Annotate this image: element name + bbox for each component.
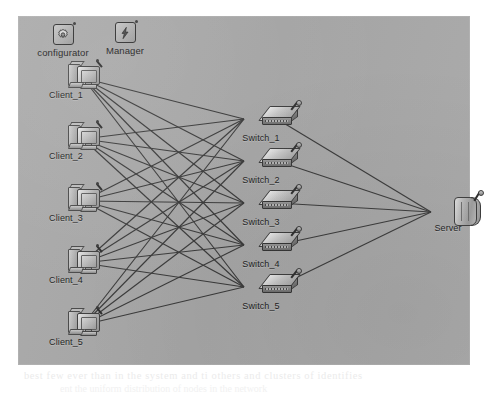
client-node-label: Client_2: [34, 151, 98, 161]
client-node-client-3[interactable]: Client_3: [34, 184, 98, 223]
manager-tile[interactable]: [115, 22, 136, 43]
switch-front-face: [262, 285, 292, 293]
switch-node-switch-1[interactable]: Switch_1: [229, 104, 293, 143]
topology-canvas[interactable]: configurator Manager Client_1Client_2Cli…: [18, 16, 470, 365]
page-bleed-text-line-1: best few ever than in the system and ti …: [24, 370, 464, 381]
link-client_3-switch_3: [83, 201, 244, 203]
keyboard: [68, 82, 84, 88]
link-client_3-switch_5: [83, 201, 244, 287]
client-node-client-1[interactable]: Client_1: [34, 61, 98, 100]
keyboard: [68, 329, 84, 335]
monitor-screen: [81, 193, 97, 206]
switch-front-face: [262, 243, 292, 251]
workstation-icon[interactable]: [34, 308, 98, 338]
link-client_3-switch_4: [83, 201, 244, 245]
server-icon[interactable]: [416, 194, 480, 224]
network-link-icon: [96, 306, 105, 316]
link-client_5-switch_2: [83, 161, 244, 325]
antenna-icon: [291, 184, 302, 195]
link-switch_1-server: [277, 119, 431, 212]
switch-node-label: Switch_2: [229, 175, 293, 185]
switch-ports: [265, 288, 288, 290]
link-client_1-switch_1: [83, 78, 244, 119]
client-node-client-5[interactable]: Client_5: [34, 308, 98, 347]
monitor-screen: [81, 255, 97, 268]
network-switch-icon[interactable]: [229, 188, 293, 218]
switch-front-face: [262, 117, 292, 125]
antenna-icon: [474, 190, 486, 202]
keyboard: [68, 267, 84, 273]
network-link-icon: [96, 59, 105, 69]
antenna-icon: [291, 268, 302, 279]
antenna-icon: [291, 226, 302, 237]
page-bleed-text-line-2: ent the uniform distribution of nodes in…: [60, 383, 440, 394]
network-switch-icon[interactable]: [229, 230, 293, 260]
link-client_1-switch_5: [83, 78, 244, 287]
switch-ports: [265, 120, 288, 122]
network-switch-icon[interactable]: [229, 104, 293, 134]
app-shortcut-manager[interactable]: Manager: [86, 22, 164, 56]
monitor-screen: [81, 317, 97, 330]
server-seam: [461, 202, 462, 221]
monitor-screen: [81, 131, 97, 144]
link-client_3-switch_2: [83, 161, 244, 201]
switch-ports: [265, 246, 288, 248]
monitor-screen: [81, 70, 97, 83]
keyboard: [68, 205, 84, 211]
switch-node-switch-3[interactable]: Switch_3: [229, 188, 293, 227]
workstation-icon[interactable]: [34, 61, 98, 91]
switch-node-label: Switch_3: [229, 217, 293, 227]
antenna-icon: [291, 100, 302, 111]
switch-front-face: [262, 159, 292, 167]
link-client_2-switch_1: [83, 119, 244, 139]
app-shortcut-manager-label: Manager: [86, 45, 164, 56]
link-client_3-switch_1: [83, 119, 244, 201]
link-client_5-switch_4: [83, 245, 244, 325]
switch-node-label: Switch_1: [229, 133, 293, 143]
switch-node-label: Switch_4: [229, 259, 293, 269]
antenna-icon: [291, 142, 302, 153]
client-node-label: Client_3: [34, 213, 98, 223]
client-node-client-4[interactable]: Client_4: [34, 246, 98, 285]
tile-badge-dot: [135, 20, 138, 23]
workstation-icon[interactable]: [34, 122, 98, 152]
link-client_2-switch_4: [83, 139, 244, 245]
client-node-label: Client_1: [34, 90, 98, 100]
server-node-server[interactable]: Server: [416, 194, 480, 233]
network-link-icon: [96, 182, 105, 192]
client-node-client-2[interactable]: Client_2: [34, 122, 98, 161]
workstation-icon[interactable]: [34, 184, 98, 214]
network-switch-icon[interactable]: [229, 146, 293, 176]
server-seam: [468, 202, 469, 221]
switch-node-switch-2[interactable]: Switch_2: [229, 146, 293, 185]
switch-node-switch-5[interactable]: Switch_5: [229, 272, 293, 311]
network-link-icon: [96, 120, 105, 130]
switch-front-face: [262, 201, 292, 209]
link-client_4-switch_5: [83, 263, 244, 287]
tile-badge-dot: [73, 22, 76, 25]
switch-node-switch-4[interactable]: Switch_4: [229, 230, 293, 269]
lightning-bolt-icon: [119, 25, 132, 40]
network-switch-icon[interactable]: [229, 272, 293, 302]
client-node-label: Client_5: [34, 337, 98, 347]
keyboard: [68, 143, 84, 149]
client-node-label: Client_4: [34, 275, 98, 285]
switch-node-label: Switch_5: [229, 301, 293, 311]
network-link-icon: [96, 244, 105, 254]
gear-icon: [56, 28, 70, 42]
configurator-tile[interactable]: [53, 24, 74, 45]
switch-ports: [265, 162, 288, 164]
workstation-icon[interactable]: [34, 246, 98, 276]
switch-ports: [265, 204, 288, 206]
